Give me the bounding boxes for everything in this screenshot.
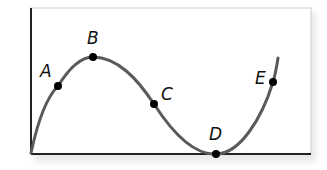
point-e-label: E [255,68,266,88]
plot-frame [31,8,311,154]
point-c-label: C [161,84,173,104]
point-a-label: A [39,61,52,81]
curve-diagram: A B C D E [0,0,327,170]
point-d-label: D [209,124,222,144]
point-b-label: B [87,28,99,48]
